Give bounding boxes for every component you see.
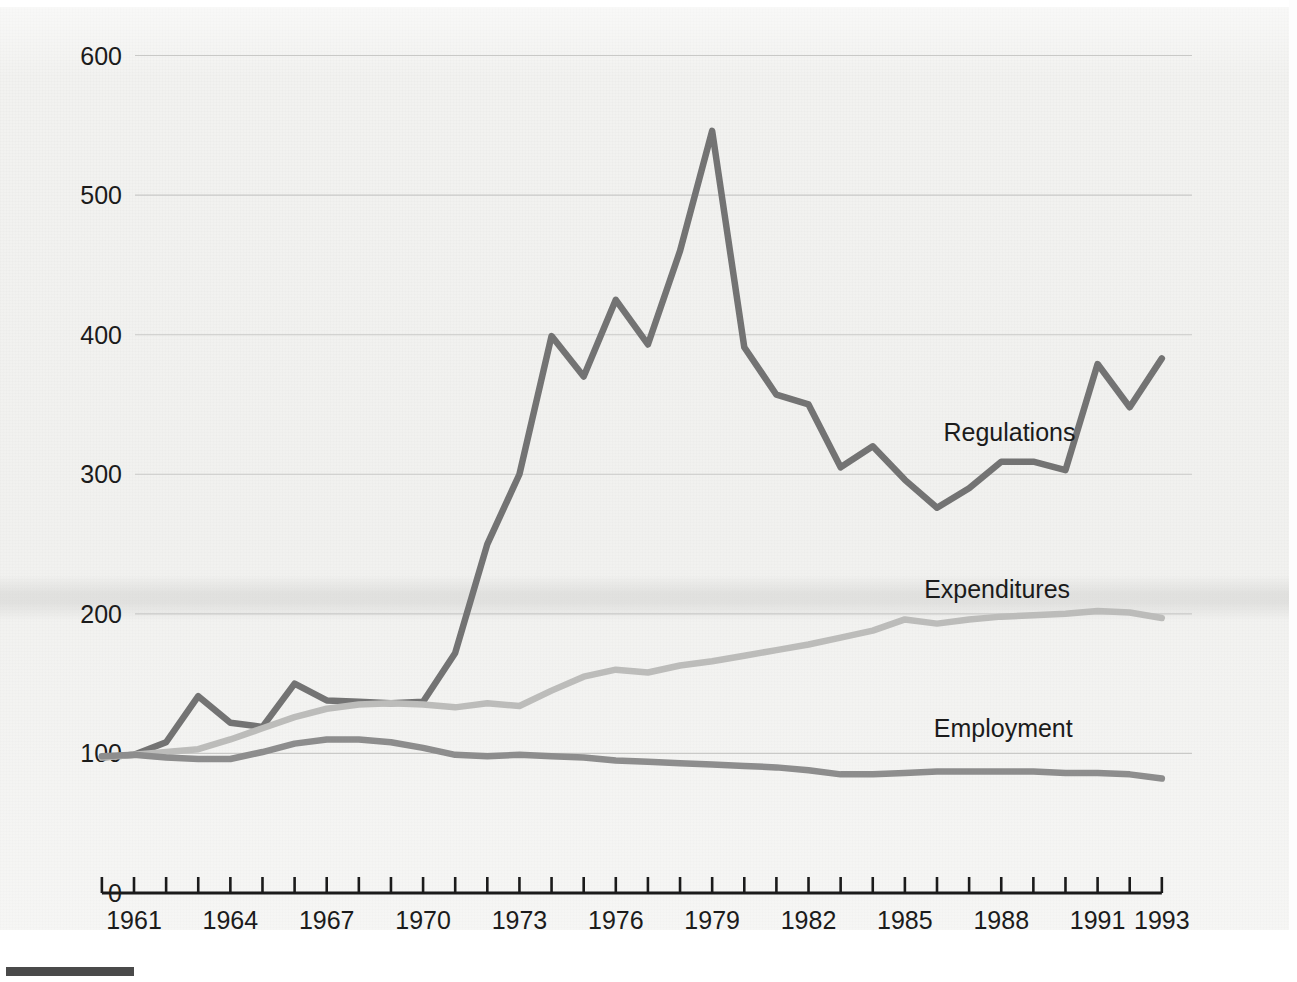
series-line-employment: [102, 739, 1162, 778]
series-label-employment: Employment: [934, 714, 1073, 742]
y-tick-label-600: 600: [80, 42, 122, 70]
y-tick-label-500: 500: [80, 181, 122, 209]
series-label-regulations: Regulations: [943, 418, 1075, 446]
y-tick-label-200: 200: [80, 600, 122, 628]
footer-rule: [6, 967, 134, 976]
page-bottom-margin: [0, 930, 1297, 982]
y-tick-label-0: 0: [108, 879, 122, 907]
line-chart: 0100200300400500600 19611964196719701973…: [0, 0, 1297, 982]
data-series-group: [102, 131, 1162, 779]
x-tick-marks-group: [102, 877, 1162, 893]
y-axis-labels-group: 0100200300400500600: [80, 42, 122, 907]
chart-figure: 0100200300400500600 19611964196719701973…: [0, 0, 1297, 982]
series-label-expenditures: Expenditures: [924, 575, 1070, 603]
y-tick-label-300: 300: [80, 460, 122, 488]
gridlines-group: [135, 56, 1192, 754]
y-tick-label-400: 400: [80, 321, 122, 349]
